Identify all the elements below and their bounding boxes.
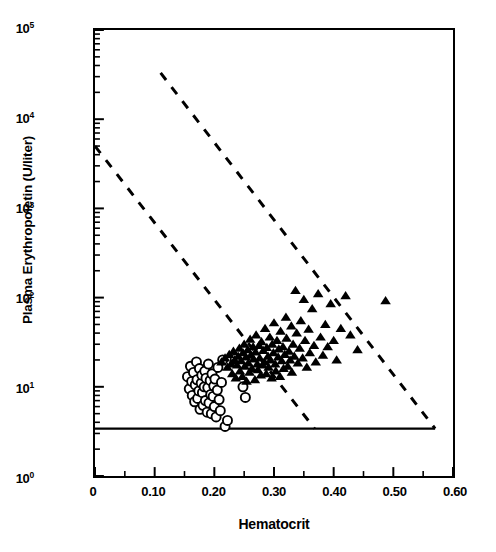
x-tick-label-0.60: 0.60 xyxy=(443,484,467,499)
data-point-circle xyxy=(216,406,225,415)
data-point-circle xyxy=(215,395,224,404)
data-point-circle xyxy=(223,416,232,425)
data-point-triangle xyxy=(286,321,297,329)
y-tick-exponent: 0 xyxy=(30,470,34,480)
plot-canvas xyxy=(95,30,453,476)
data-point-triangle xyxy=(309,341,320,349)
y-tick-exponent: 4 xyxy=(30,110,34,120)
data-point-circle xyxy=(241,393,250,402)
data-point-triangle xyxy=(352,345,363,353)
y-tick-label-10: 101 xyxy=(16,380,34,396)
y-tick-mantissa: 10 xyxy=(16,201,30,216)
data-point-triangle xyxy=(296,316,307,324)
x-tick-label-0.40: 0.40 xyxy=(322,484,346,499)
x-axis-title: Hematocrit xyxy=(93,516,455,532)
y-tick-label-10000: 104 xyxy=(16,110,34,126)
y-tick-label-100: 102 xyxy=(16,290,34,306)
data-point-triangle xyxy=(318,351,329,359)
scatter-plot-figure: Plasma Erythropoietin (U/liter) 10010110… xyxy=(0,0,496,552)
data-point-triangle xyxy=(331,355,342,363)
plot-area xyxy=(93,28,455,478)
data-point-triangle xyxy=(260,324,271,332)
y-tick-label-1000: 103 xyxy=(16,200,34,216)
data-point-triangle xyxy=(290,286,301,294)
y-tick-exponent: 1 xyxy=(30,380,34,390)
y-tick-label-100000: 105 xyxy=(16,20,34,36)
x-tick-label-0.20: 0.20 xyxy=(202,484,226,499)
data-point-triangle xyxy=(320,320,331,328)
data-point-triangle xyxy=(305,348,316,356)
x-tick-label-0.10: 0.10 xyxy=(141,484,165,499)
x-tick-label-0.30: 0.30 xyxy=(262,484,286,499)
data-point-triangle xyxy=(291,328,302,336)
data-point-triangle xyxy=(307,304,318,312)
y-tick-exponent: 5 xyxy=(30,20,34,30)
y-tick-exponent: 3 xyxy=(30,200,34,210)
y-tick-mantissa: 10 xyxy=(16,471,30,486)
data-point-triangle xyxy=(380,296,391,304)
x-tick-label-0.50: 0.50 xyxy=(383,484,407,499)
data-point-triangle xyxy=(315,332,326,340)
data-point-triangle xyxy=(313,289,324,297)
data-point-triangle xyxy=(281,333,292,341)
data-point-triangle xyxy=(281,313,292,321)
data-point-triangle xyxy=(336,324,347,332)
data-point-triangle xyxy=(275,326,286,334)
data-point-triangle xyxy=(328,336,339,344)
y-tick-mantissa: 10 xyxy=(16,111,30,126)
data-point-triangle xyxy=(340,291,351,299)
data-point-triangle xyxy=(265,332,276,340)
data-point-triangle xyxy=(299,295,310,303)
data-point-triangle xyxy=(251,330,262,338)
y-tick-exponent: 2 xyxy=(30,290,34,300)
y-tick-mantissa: 10 xyxy=(16,21,30,36)
data-point-triangle xyxy=(302,363,313,371)
data-point-circle xyxy=(204,359,213,368)
y-tick-mantissa: 10 xyxy=(16,291,30,306)
data-point-triangle xyxy=(300,336,311,344)
data-point-triangle xyxy=(303,325,314,333)
data-point-triangle xyxy=(345,330,356,338)
data-point-triangle xyxy=(269,318,280,326)
y-tick-mantissa: 10 xyxy=(16,381,30,396)
y-tick-label-1: 100 xyxy=(16,470,34,486)
data-point-circle xyxy=(217,378,226,387)
x-tick-label-0: 0 xyxy=(90,484,97,499)
